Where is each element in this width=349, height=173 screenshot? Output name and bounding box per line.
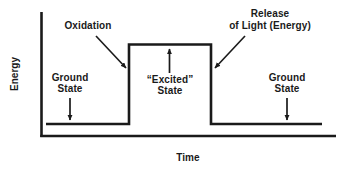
annotation-ground-state-right-line1: Ground	[269, 72, 306, 84]
release-of-light-arrow	[215, 36, 245, 68]
annotation-release-of-light-line1: Release	[251, 8, 290, 20]
annotation-excited-state-line2: State	[158, 85, 183, 97]
energy-step-diagram: Energy Time Oxidation Release of Light (…	[0, 0, 349, 173]
annotation-excited-state-line1: “Excited”	[147, 74, 193, 86]
oxidation-arrow	[96, 36, 126, 68]
annotation-ground-state-left-line2: State	[58, 83, 83, 95]
annotation-oxidation: Oxidation	[64, 20, 111, 32]
annotation-ground-state-right-line2: State	[275, 83, 300, 95]
annotation-release-of-light-line2: of Light (Energy)	[229, 20, 311, 32]
y-axis-label: Energy	[9, 57, 20, 91]
annotation-ground-state-left-line1: Ground	[52, 72, 89, 84]
x-axis-label: Time	[176, 152, 200, 164]
